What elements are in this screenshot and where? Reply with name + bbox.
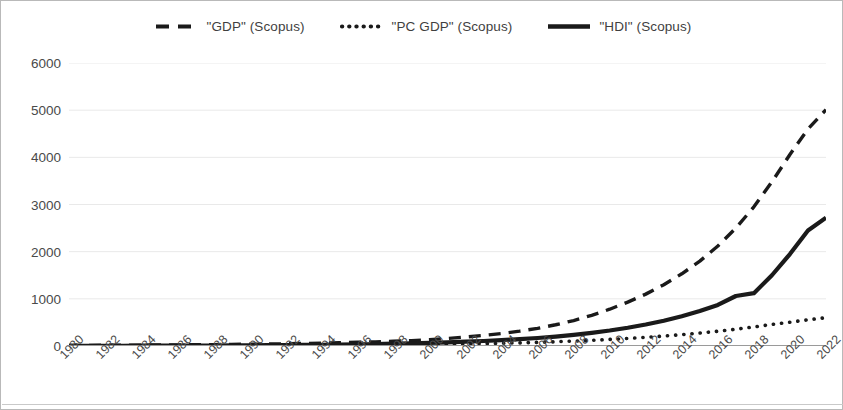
dotted-line-marker-icon xyxy=(339,21,385,32)
legend-label-hdi: "HDI" (Scopus) xyxy=(599,19,691,34)
series-line-gdp xyxy=(69,110,826,346)
gridlines xyxy=(69,63,826,299)
chart-container: "GDP" (Scopus) "PC GDP" (Scopus) "HDI" (… xyxy=(0,0,843,410)
footer-divider xyxy=(2,404,843,405)
y-axis-tick-label: 1000 xyxy=(3,291,61,306)
y-axis-tick-label: 0 xyxy=(3,339,61,354)
data-series xyxy=(69,110,826,346)
y-axis-tick-label: 5000 xyxy=(3,103,61,118)
chart-legend: "GDP" (Scopus) "PC GDP" (Scopus) "HDI" (… xyxy=(1,19,843,34)
dashed-line-marker-icon xyxy=(154,21,200,32)
y-axis-tick-label: 2000 xyxy=(3,244,61,259)
legend-item-hdi: "HDI" (Scopus) xyxy=(546,19,691,34)
series-line-hdi xyxy=(69,218,826,346)
y-axis-tick-label: 4000 xyxy=(3,150,61,165)
y-axis-tick-label: 3000 xyxy=(3,197,61,212)
y-axis: 0100020003000400050006000 xyxy=(1,63,61,346)
x-axis: 1980198219841986198819901992199419961998… xyxy=(69,348,826,406)
legend-item-gdp: "GDP" (Scopus) xyxy=(154,19,305,34)
legend-label-gdp: "GDP" (Scopus) xyxy=(207,19,305,34)
plot-area xyxy=(69,63,826,346)
x-axis-tick-label: 1980 xyxy=(57,332,87,362)
y-axis-tick-label: 6000 xyxy=(3,56,61,71)
solid-line-marker-icon xyxy=(546,21,592,32)
legend-item-pc-gdp: "PC GDP" (Scopus) xyxy=(339,19,513,34)
legend-label-pc-gdp: "PC GDP" (Scopus) xyxy=(392,19,513,34)
